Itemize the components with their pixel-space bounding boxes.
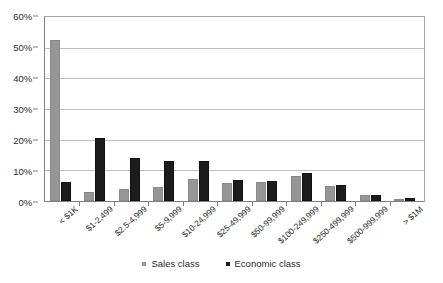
bar-group — [79, 17, 113, 201]
bar-economic-class — [130, 158, 140, 201]
legend-label-sales-class: Sales class — [151, 258, 199, 269]
y-tick-mark — [33, 140, 38, 141]
bar-sales-class — [222, 183, 232, 201]
x-tick-label: < $1K — [57, 204, 80, 226]
bar-group — [286, 17, 320, 201]
bar-sales-class — [188, 179, 198, 201]
bar-group — [183, 17, 217, 201]
bar-group — [390, 17, 424, 201]
x-tick-label: $2.5-4,999 — [113, 204, 149, 238]
y-tick-label: 10% — [13, 166, 32, 177]
bar-group — [217, 17, 251, 201]
bar-economic-class — [199, 161, 209, 201]
y-tick-label: 30% — [13, 104, 32, 115]
bar-sales-class — [360, 195, 370, 201]
y-tick-mark — [33, 202, 38, 203]
bar-sales-class — [84, 192, 94, 201]
bar-economic-class — [302, 173, 312, 201]
y-tick-label: 40% — [13, 73, 32, 84]
bar-economic-class — [164, 161, 174, 201]
y-tick-label: 60% — [13, 11, 32, 22]
bar-sales-class — [394, 199, 404, 201]
x-tick-label: > $1M — [400, 204, 424, 227]
x-tick-label: $5-9,999 — [152, 204, 183, 233]
x-tick-label: $1-2,499 — [83, 204, 114, 233]
bar-economic-class — [233, 180, 243, 201]
bar-group — [148, 17, 182, 201]
legend-item-economic-class: Economic class — [226, 258, 301, 269]
bar-economic-class — [61, 182, 71, 201]
bars-layer — [45, 17, 424, 201]
bar-chart: 0%10%20%30%40%50%60% < $1K$1-2,499$2.5-4… — [0, 0, 443, 283]
bar-sales-class — [325, 186, 335, 201]
x-tick-label: $10-24,999 — [180, 204, 218, 240]
bar-sales-class — [119, 189, 129, 201]
bar-group — [45, 17, 79, 201]
y-tick-label: 50% — [13, 42, 32, 53]
bar-economic-class — [267, 181, 277, 201]
y-tick-mark — [33, 109, 38, 110]
bar-economic-class — [336, 185, 346, 201]
y-tick-mark — [33, 171, 38, 172]
y-axis: 0%10%20%30%40%50%60% — [0, 16, 38, 202]
legend-swatch-icon-sales-class — [142, 262, 146, 266]
y-tick-mark — [33, 78, 38, 79]
bar-economic-class — [405, 198, 415, 201]
bar-group — [355, 17, 389, 201]
bar-sales-class — [153, 187, 163, 201]
chart-legend: Sales class Economic class — [0, 258, 443, 269]
bar-group — [321, 17, 355, 201]
bar-economic-class — [95, 138, 105, 201]
bar-sales-class — [291, 176, 301, 201]
bar-economic-class — [371, 195, 381, 201]
bar-sales-class — [50, 40, 60, 201]
legend-item-sales-class: Sales class — [142, 258, 199, 269]
bar-group — [252, 17, 286, 201]
bar-group — [114, 17, 148, 201]
x-axis: < $1K$1-2,499$2.5-4,999$5-9,999$10-24,99… — [0, 204, 443, 256]
bar-sales-class — [256, 182, 266, 201]
y-tick-mark — [33, 16, 38, 17]
x-tick-label: $25-49,999 — [214, 204, 252, 240]
legend-swatch-icon-economic-class — [226, 262, 230, 266]
y-tick-label: 20% — [13, 135, 32, 146]
y-tick-mark — [33, 47, 38, 48]
legend-label-economic-class: Economic class — [235, 258, 301, 269]
